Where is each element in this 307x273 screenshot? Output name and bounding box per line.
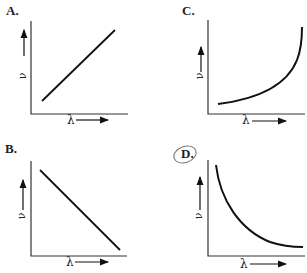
graph-a-xlabel: λ xyxy=(67,113,75,127)
graph-a-ylabel: ν xyxy=(16,72,29,79)
graph-a-axes xyxy=(31,21,128,114)
graph-c-xlabel: λ xyxy=(242,113,250,127)
graph-d-curve xyxy=(216,165,303,247)
graph-a-line xyxy=(42,30,115,101)
graph-b-ylabel: ν xyxy=(15,212,28,219)
graph-c-ylabel: ν xyxy=(193,72,206,79)
graph-d-xlabel: λ xyxy=(240,257,248,271)
graph-d-ylabel: ν xyxy=(192,212,205,219)
graph-d: ν λ xyxy=(192,160,305,271)
graph-b: ν λ xyxy=(15,161,127,269)
graph-c-axes xyxy=(208,20,305,114)
graph-a: ν λ xyxy=(16,21,128,127)
graph-d-axes xyxy=(208,160,305,256)
graphs-canvas: ν λ ν λ ν λ ν λ xyxy=(0,0,307,273)
graph-b-xlabel: λ xyxy=(66,255,74,269)
graph-c-curve xyxy=(218,27,302,104)
graph-b-line xyxy=(40,170,120,250)
graph-c: ν λ xyxy=(193,20,305,127)
